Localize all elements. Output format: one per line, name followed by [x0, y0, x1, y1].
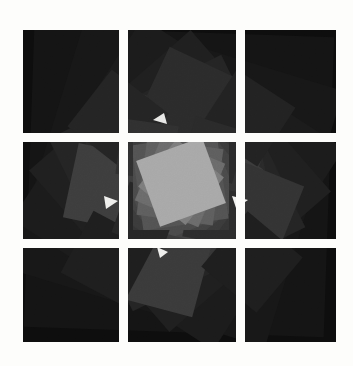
artwork-canvas [0, 0, 353, 366]
film-grain-overlay [0, 0, 353, 366]
rotated-squares-figure [0, 0, 353, 366]
